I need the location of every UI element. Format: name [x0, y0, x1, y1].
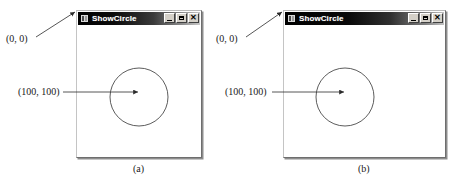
maximize-button-b[interactable]	[420, 13, 431, 23]
maximize-button-a[interactable]	[176, 13, 187, 23]
close-button-b[interactable]: ✕	[432, 13, 443, 23]
client-area-b	[285, 25, 444, 156]
minimize-button-b[interactable]	[408, 13, 419, 23]
titlebar-b[interactable]: ShowCircle ✕	[285, 12, 444, 25]
annotation-center-b: (100, 100)	[225, 86, 267, 97]
minimize-button-a[interactable]	[164, 13, 175, 23]
app-window-icon	[287, 14, 296, 23]
client-area-a	[78, 25, 200, 156]
annotation-origin-b: (0, 0)	[216, 33, 238, 44]
annotation-origin-a: (0, 0)	[6, 33, 28, 44]
close-icon: ✕	[433, 14, 442, 22]
window-buttons-a: ✕	[164, 13, 199, 23]
annotation-center-a: (100, 100)	[18, 86, 60, 97]
titlebar-a[interactable]: ShowCircle ✕	[78, 12, 200, 25]
window-showcircle-a[interactable]: ShowCircle ✕	[76, 10, 202, 158]
figure-showcircle: ShowCircle ✕ (0, 0) (100, 100) (a) ShowC…	[0, 0, 460, 186]
panel-a: ShowCircle ✕ (0, 0) (100, 100) (a)	[0, 0, 230, 186]
caption-a: (a)	[133, 163, 144, 174]
window-buttons-b: ✕	[408, 13, 443, 23]
app-window-icon	[80, 14, 89, 23]
window-showcircle-b[interactable]: ShowCircle ✕	[283, 10, 446, 158]
window-title-a: ShowCircle	[92, 15, 137, 23]
close-icon: ✕	[189, 14, 198, 22]
caption-b: (b)	[358, 163, 370, 174]
close-button-a[interactable]: ✕	[188, 13, 199, 23]
window-title-b: ShowCircle	[299, 15, 344, 23]
